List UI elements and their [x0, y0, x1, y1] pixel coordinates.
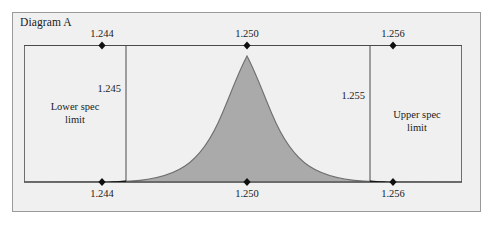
marker-top-left[interactable] [98, 42, 105, 50]
lower-spec-caption-line2: limit [65, 114, 85, 125]
tick-label-bottom-right: 1.256 [381, 188, 405, 199]
upper-spec-caption-line1: Upper spec [393, 109, 441, 120]
lower-spec-value-label: 1.245 [97, 83, 121, 94]
upper-spec-caption-line2: limit [407, 122, 427, 133]
marker-bottom-right[interactable] [389, 178, 396, 186]
marker-bottom-left[interactable] [98, 178, 105, 186]
tick-label-top-center: 1.250 [235, 28, 259, 39]
distribution-chart: 1.244 1.250 1.256 1.244 1.250 1.256 1.24… [0, 0, 492, 230]
diagram-figure: Diagram A 1.244 1.250 1.256 1.244 1.250 [0, 0, 492, 230]
marker-top-center[interactable] [243, 42, 250, 50]
tick-label-bottom-center: 1.250 [235, 188, 259, 199]
tick-label-top-left: 1.244 [90, 28, 114, 39]
upper-spec-value-label: 1.255 [341, 90, 365, 101]
lower-spec-caption-line1: Lower spec [51, 101, 100, 112]
tick-label-bottom-left: 1.244 [90, 188, 114, 199]
marker-top-right[interactable] [389, 42, 396, 50]
tick-label-top-right: 1.256 [381, 28, 405, 39]
